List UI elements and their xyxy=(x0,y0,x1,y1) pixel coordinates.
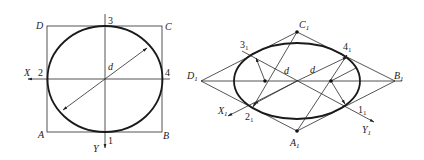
label-1-1: 11 xyxy=(358,104,367,117)
left-figure: D C A B 3 2 4 1 X Y d xyxy=(23,14,172,154)
point-C1 xyxy=(295,30,299,34)
label-C: C xyxy=(165,21,172,32)
construct-right xyxy=(331,68,356,81)
diagram-figure: D C A B 3 2 4 1 X Y d xyxy=(0,0,424,160)
diameter-arrow-left xyxy=(63,79,105,110)
label-4: 4 xyxy=(165,67,170,78)
label-Y1: Y1 xyxy=(362,124,371,137)
label-3-1: 31 xyxy=(240,39,249,52)
y1-axis xyxy=(242,51,374,122)
label-Y: Y xyxy=(93,143,100,154)
label-B: B xyxy=(163,130,169,141)
label-C1: C1 xyxy=(299,19,309,32)
diameter-arrow-2 xyxy=(254,81,297,104)
label-A: A xyxy=(37,129,45,140)
label-D1: D1 xyxy=(186,70,198,83)
arc-radius-left-3 xyxy=(256,58,265,81)
label-2-1: 21 xyxy=(245,111,254,124)
label-d-2: d xyxy=(310,64,316,75)
label-3: 3 xyxy=(108,15,113,26)
label-A1: A1 xyxy=(289,137,300,150)
label-2: 2 xyxy=(38,67,43,78)
right-figure: C1 A1 B1 D1 31 41 21 11 X1 Y1 d d xyxy=(186,19,404,150)
point-center-left xyxy=(263,79,267,83)
arc-radius-right-1 xyxy=(331,81,345,104)
diagram-canvas: D C A B 3 2 4 1 X Y d xyxy=(0,0,424,160)
label-d: d xyxy=(108,61,114,72)
arc-radius-a1-4 xyxy=(297,55,347,131)
point-center-right xyxy=(329,79,333,83)
point-A1 xyxy=(295,129,299,133)
label-4-1: 41 xyxy=(343,41,352,54)
label-X1: X1 xyxy=(217,105,228,118)
label-1: 1 xyxy=(108,135,113,146)
label-D: D xyxy=(35,20,44,31)
label-X: X xyxy=(23,67,31,78)
label-d-1: d xyxy=(284,65,290,76)
diameter-arrow-4 xyxy=(297,57,347,81)
